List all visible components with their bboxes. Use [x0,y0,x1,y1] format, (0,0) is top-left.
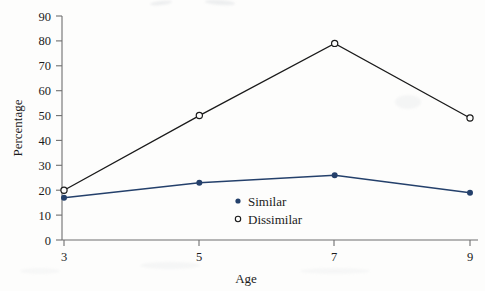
y-tick-label-80: 80 [39,34,52,48]
chart-figure: 90 80 70 60 50 40 30 20 10 0 3 5 7 9 Per… [0,0,485,291]
y-tick-label-90: 90 [39,10,52,24]
y-tick-label-70: 70 [39,59,52,73]
line-chart-plot: 90 80 70 60 50 40 30 20 10 0 3 5 7 9 Per… [0,0,485,291]
series-dissimilar [61,40,473,193]
x-axis-title: Age [235,271,257,286]
x-tick-label-3: 3 [61,250,67,264]
x-tick-label-5: 5 [196,250,202,264]
data-point [61,195,67,201]
data-point [196,112,202,118]
data-point [196,180,202,186]
legend-label-similar: Similar [248,194,287,209]
data-point [332,172,338,178]
y-axis-title: Percentage [10,99,25,156]
y-tick-label-40: 40 [39,134,52,148]
legend-marker-dissimilar-icon [235,216,240,221]
data-point [332,40,338,46]
y-tick-label-0: 0 [45,234,51,248]
y-tick-label-10: 10 [39,209,52,223]
y-tick-label-50: 50 [39,109,52,123]
x-axis-ticks [64,240,470,246]
data-point [61,187,67,193]
y-axis-ticks [56,16,62,240]
chart-legend: Similar Dissimilar [235,194,303,227]
x-tick-label-9: 9 [467,250,473,264]
data-point [467,115,473,121]
legend-marker-similar-icon [235,198,240,203]
x-tick-label-7: 7 [331,250,337,264]
y-axis [56,16,62,240]
y-tick-label-20: 20 [39,184,52,198]
y-tick-label-30: 30 [39,159,52,173]
data-point [467,190,473,196]
x-axis [62,240,478,246]
legend-label-dissimilar: Dissimilar [248,212,303,227]
y-tick-label-60: 60 [39,84,52,98]
series-dissimilar-line [64,43,470,190]
series-dissimilar-markers [61,40,473,193]
